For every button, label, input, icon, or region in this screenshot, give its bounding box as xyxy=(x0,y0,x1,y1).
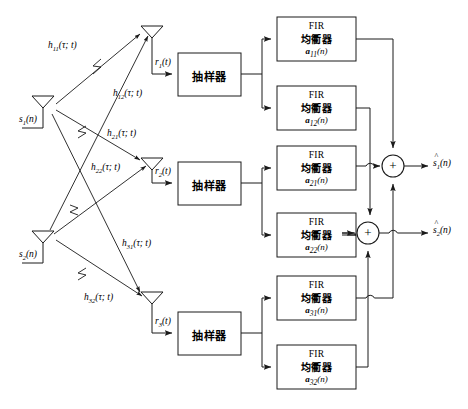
fir-a12-coef: a12(n) xyxy=(277,115,356,128)
channel-label-h31: h31(τ; t) xyxy=(122,238,151,250)
s2-hat-accent: ^ xyxy=(435,219,439,228)
fir-a22-line2: 均衢器 xyxy=(277,227,356,242)
channel-label-h32: h32(τ; t) xyxy=(84,292,113,304)
tx2-sig-arg: (n) xyxy=(26,249,37,259)
summer-2-plus: + xyxy=(361,226,375,239)
fir-a21-label: FIR 均衢器 a21(n) xyxy=(277,150,356,188)
h12-arg: (τ; t) xyxy=(124,88,142,98)
s2-hat-arg: (n) xyxy=(440,225,451,235)
fir-a12-line2: 均衢器 xyxy=(277,100,356,115)
fir-a22-coef: a22(n) xyxy=(277,242,356,255)
channel-bolt-h32 xyxy=(78,268,86,280)
s1-hat-accent: ^ xyxy=(435,152,439,161)
fir-a11-line2: 均衢器 xyxy=(277,31,356,46)
channel-path-h22 xyxy=(54,166,146,234)
tx-signal-label-1: s1(n) xyxy=(19,114,37,126)
fir-a31-coef-arg: (n) xyxy=(317,305,328,315)
sampler-1-label: 抽样器 xyxy=(178,68,241,84)
wire-a32-to-summer2 xyxy=(356,251,368,367)
fir-a31-line2: 均衢器 xyxy=(277,290,356,305)
sampler-2-label: 抽样器 xyxy=(178,177,241,193)
rx1-sig-arg: (t) xyxy=(162,57,171,67)
mimo-block-diagram: s1(n) s2(n) r1(t) r2(t) r3(t) h11(τ; t) … xyxy=(0,0,468,409)
tx1-sig-arg: (n) xyxy=(26,114,37,124)
channel-label-h21: h21(τ; t) xyxy=(107,128,136,140)
fir-a11-coef-arg: (n) xyxy=(317,46,328,56)
fir-a22-coef-arg: (n) xyxy=(317,242,328,252)
fir-a21-coef: a21(n) xyxy=(277,175,356,188)
channel-bolt-h21 xyxy=(78,126,86,138)
wire-sampler3-to-a32 xyxy=(262,333,271,367)
channel-bolt-h22 xyxy=(70,205,78,215)
fir-a32-line1: FIR xyxy=(277,349,356,359)
channel-label-h12: h12(τ; t) xyxy=(113,88,142,100)
wire-summer2-output xyxy=(379,230,428,233)
fir-a12-line1: FIR xyxy=(277,90,356,100)
wire-sampler3-to-a31 xyxy=(262,298,271,333)
fir-a32-label: FIR 均衢器 a32(n) xyxy=(277,349,356,387)
fir-a31-coef: a31(n) xyxy=(277,305,356,318)
wire-sampler2-to-a21 xyxy=(262,168,271,183)
rx-signal-label-3: r3(t) xyxy=(155,316,171,328)
rx-signal-label-2: r2(t) xyxy=(155,166,171,178)
wire-a21-to-summer1 xyxy=(356,163,380,166)
channel-label-h11: h11(τ; t) xyxy=(48,40,77,52)
sampler-3-label: 抽样器 xyxy=(178,327,241,343)
wire-sampler2-to-a22 xyxy=(262,183,271,235)
h22-arg: (τ; t) xyxy=(102,162,120,172)
output-label-s2-hat: ^s2(n) xyxy=(433,225,451,237)
fir-a31-line1: FIR xyxy=(277,280,356,290)
rx3-sig-arg: (t) xyxy=(162,316,171,326)
fir-a11-line1: FIR xyxy=(277,21,356,31)
fir-a32-line2: 均衢器 xyxy=(277,359,356,374)
fir-a32-coef: a32(n) xyxy=(277,374,356,387)
fir-a11-coef-sub: 11 xyxy=(310,50,317,59)
wire-a11-to-summer1 xyxy=(356,39,393,148)
fir-a22-line1: FIR xyxy=(277,217,356,227)
h31-arg: (τ; t) xyxy=(133,238,151,248)
rx-signal-label-1: r1(t) xyxy=(155,57,171,69)
fir-a32-coef-arg: (n) xyxy=(317,374,328,384)
h32-arg: (τ; t) xyxy=(95,292,113,302)
wire-sampler1-to-a11 xyxy=(262,39,271,74)
fir-a21-line1: FIR xyxy=(277,150,356,160)
fir-a11-label: FIR 均衢器 a11(n) xyxy=(277,21,356,59)
h21-arg: (τ; t) xyxy=(118,128,136,138)
wire-a12-to-summer2 xyxy=(356,108,370,215)
s1-hat-arg: (n) xyxy=(440,158,451,168)
channel-label-h22: h22(τ; t) xyxy=(91,162,120,174)
tx-signal-label-2: s2(n) xyxy=(19,249,37,261)
output-label-s1-hat: ^s1(n) xyxy=(433,158,451,170)
fir-a31-label: FIR 均衢器 a31(n) xyxy=(277,280,356,318)
diagram-lines xyxy=(0,0,468,409)
fir-a21-line2: 均衢器 xyxy=(277,160,356,175)
fir-a21-coef-arg: (n) xyxy=(317,175,328,185)
rx2-sig-arg: (t) xyxy=(162,166,171,176)
fir-a12-coef-arg: (n) xyxy=(317,115,328,125)
h11-arg: (τ; t) xyxy=(59,40,77,50)
wire-sampler1-to-a12 xyxy=(262,74,271,108)
fir-a22-label: FIR 均衢器 a22(n) xyxy=(277,217,356,255)
fir-a11-coef: a11(n) xyxy=(277,46,356,59)
fir-a12-label: FIR 均衢器 a12(n) xyxy=(277,90,356,128)
summer-1-plus: + xyxy=(386,159,400,172)
